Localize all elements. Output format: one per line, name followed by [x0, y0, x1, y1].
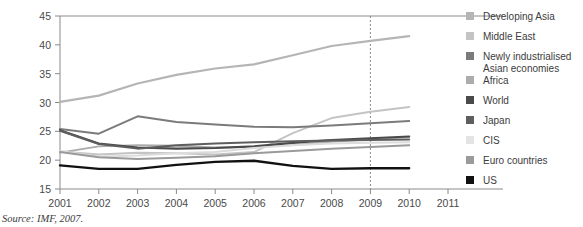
y-tick-label: 25 [39, 125, 51, 137]
x-tick-label: 2004 [165, 197, 189, 209]
legend-label-continued[interactable]: Asian economies [483, 63, 559, 74]
legend-swatch [466, 176, 474, 184]
legend-swatch [466, 156, 474, 164]
x-tick-label: 2006 [242, 197, 266, 209]
series-lines [60, 36, 409, 169]
x-tick-label: 2009 [359, 197, 383, 209]
x-tick-label: 2007 [281, 197, 305, 209]
y-tick-label: 35 [39, 68, 51, 80]
legend-label[interactable]: Africa [483, 75, 509, 86]
y-tick-label: 30 [39, 97, 51, 109]
legend-label[interactable]: CIS [483, 135, 500, 146]
chart-legend: Developing AsiaMiddle EastNewly industri… [466, 11, 571, 186]
y-tick-label: 45 [39, 10, 51, 22]
x-tick-label: 2003 [126, 197, 150, 209]
x-tick-label: 2005 [204, 197, 228, 209]
y-tick-label: 40 [39, 39, 51, 51]
legend-label[interactable]: Japan [483, 115, 510, 126]
legend-swatch [466, 32, 474, 40]
legend-swatch [466, 96, 474, 104]
legend-label[interactable]: Euro countries [483, 155, 547, 166]
y-tick-label: 20 [39, 154, 51, 166]
legend-swatch [466, 136, 474, 144]
x-axis-ticks: 2001200220032004200520062007200820092010… [48, 189, 459, 209]
series-line [60, 36, 409, 102]
legend-swatch [466, 76, 474, 84]
legend-label[interactable]: Middle East [483, 31, 535, 42]
x-tick-label: 2002 [87, 197, 111, 209]
y-tick-label: 15 [39, 183, 51, 195]
legend-swatch [466, 12, 474, 20]
legend-label[interactable]: Developing Asia [483, 11, 555, 22]
series-line [60, 131, 409, 149]
legend-label[interactable]: US [483, 175, 497, 186]
investment-line-chart: 15202530354045 2001200220032004200520062… [0, 0, 583, 227]
legend-swatch [466, 52, 474, 60]
x-tick-label: 2001 [48, 197, 72, 209]
x-tick-label: 2011 [437, 197, 460, 209]
legend-swatch [466, 116, 474, 124]
source-note: Source: IMF, 2007. [2, 213, 83, 224]
y-axis-ticks: 15202530354045 [39, 10, 60, 195]
x-tick-label: 2008 [320, 197, 344, 209]
legend-label[interactable]: World [483, 95, 509, 106]
x-tick-label: 2010 [398, 197, 422, 209]
series-line [60, 161, 409, 169]
axis-frame [60, 16, 503, 189]
legend-label[interactable]: Newly industrialised [483, 51, 571, 62]
series-line [60, 116, 409, 133]
